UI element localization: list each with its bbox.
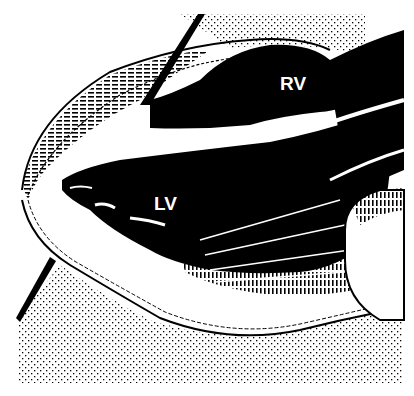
- heart-illustration: [0, 0, 414, 396]
- lv-label: LV: [154, 193, 177, 215]
- papillary-muscles: [180, 239, 360, 296]
- rv-trabeculae: [230, 95, 300, 122]
- rv-label: RV: [280, 73, 306, 95]
